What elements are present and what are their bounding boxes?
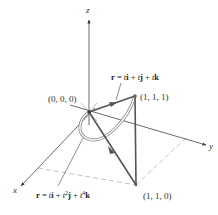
- point-111-label: (1, 1, 1): [140, 92, 169, 102]
- diagram: z y x (0, 0, 0) (1, 1, 1) (1, 1, 0) r = …: [0, 0, 218, 215]
- line-111-to-110: [135, 96, 136, 185]
- origin-label: (0, 0, 0): [48, 94, 77, 104]
- point-110-label: (1, 1, 0): [143, 191, 172, 201]
- z-axis-label: z: [85, 5, 90, 15]
- direction-arrow-icon: [109, 102, 117, 107]
- leader-line-eq: [116, 83, 121, 100]
- y-axis-label: y: [208, 141, 213, 151]
- curve-equation: r = ti + t2j + t4k: [36, 190, 90, 200]
- curve-path: [80, 96, 135, 140]
- x-axis-label: x: [12, 185, 17, 195]
- line-origin-to-110: [89, 112, 136, 185]
- dashed-y-projection: [136, 137, 187, 185]
- dashed-x-projection: [38, 168, 136, 185]
- point-111: [133, 94, 137, 98]
- leader-curve-eq: [58, 138, 83, 186]
- point-origin: [87, 110, 90, 113]
- line-equation: r = ti + tj + tk: [111, 72, 159, 82]
- x-axis: [21, 108, 95, 186]
- point-110: [135, 184, 137, 186]
